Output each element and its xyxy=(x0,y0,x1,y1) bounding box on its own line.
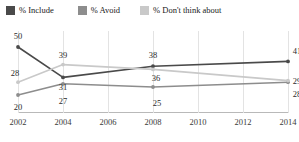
legend-label-dont-think-about: % Don't think about xyxy=(153,6,221,15)
value-label: 50 xyxy=(14,32,23,41)
legend-swatch-avoid xyxy=(78,6,87,15)
legend-label-include: % Include xyxy=(19,6,54,15)
value-label: 29 xyxy=(293,76,299,85)
plot-area: 503138412027252828393629 xyxy=(18,31,288,113)
data-point[interactable] xyxy=(16,45,20,49)
data-point[interactable] xyxy=(61,63,65,67)
data-point[interactable] xyxy=(151,68,155,72)
data-point[interactable] xyxy=(286,79,290,83)
legend-swatch-include xyxy=(6,6,15,15)
value-label: 38 xyxy=(149,51,158,60)
data-point[interactable] xyxy=(286,60,290,64)
legend-label-avoid: % Avoid xyxy=(91,6,120,15)
legend-swatch-dont-think-about xyxy=(140,6,149,15)
x-axis-tick: 2006 xyxy=(100,116,117,128)
legend-item-dont-think-about[interactable]: % Don't think about xyxy=(140,6,221,15)
value-label: 28 xyxy=(11,69,20,78)
value-label: 20 xyxy=(14,103,23,112)
data-point[interactable] xyxy=(16,93,20,97)
x-axis-tick: 2004 xyxy=(55,116,72,128)
value-label: 39 xyxy=(59,50,68,59)
data-point[interactable] xyxy=(151,85,155,89)
value-label: 27 xyxy=(59,96,68,105)
chart-legend: % Include % Avoid % Don't think about xyxy=(6,4,221,16)
value-label: 31 xyxy=(59,83,68,92)
chart-root: % Include % Avoid % Don't think about 50… xyxy=(0,0,299,142)
data-point[interactable] xyxy=(16,80,20,84)
value-label: 28 xyxy=(293,90,299,99)
legend-item-avoid[interactable]: % Avoid xyxy=(78,6,120,15)
x-axis-tick: 2012 xyxy=(235,116,252,128)
x-axis-tick: 2008 xyxy=(145,116,162,128)
gridline xyxy=(288,31,289,113)
data-point[interactable] xyxy=(61,76,65,80)
x-axis-tick: 2010 xyxy=(190,116,207,128)
x-axis-tick: 2002 xyxy=(10,116,27,128)
value-label: 41 xyxy=(293,47,299,56)
value-label: 25 xyxy=(153,99,162,108)
x-axis: 2002200420062008201020122014 xyxy=(18,116,288,130)
x-axis-tick: 2014 xyxy=(280,116,297,128)
legend-item-include[interactable]: % Include xyxy=(6,6,54,15)
value-label: 36 xyxy=(152,74,161,83)
